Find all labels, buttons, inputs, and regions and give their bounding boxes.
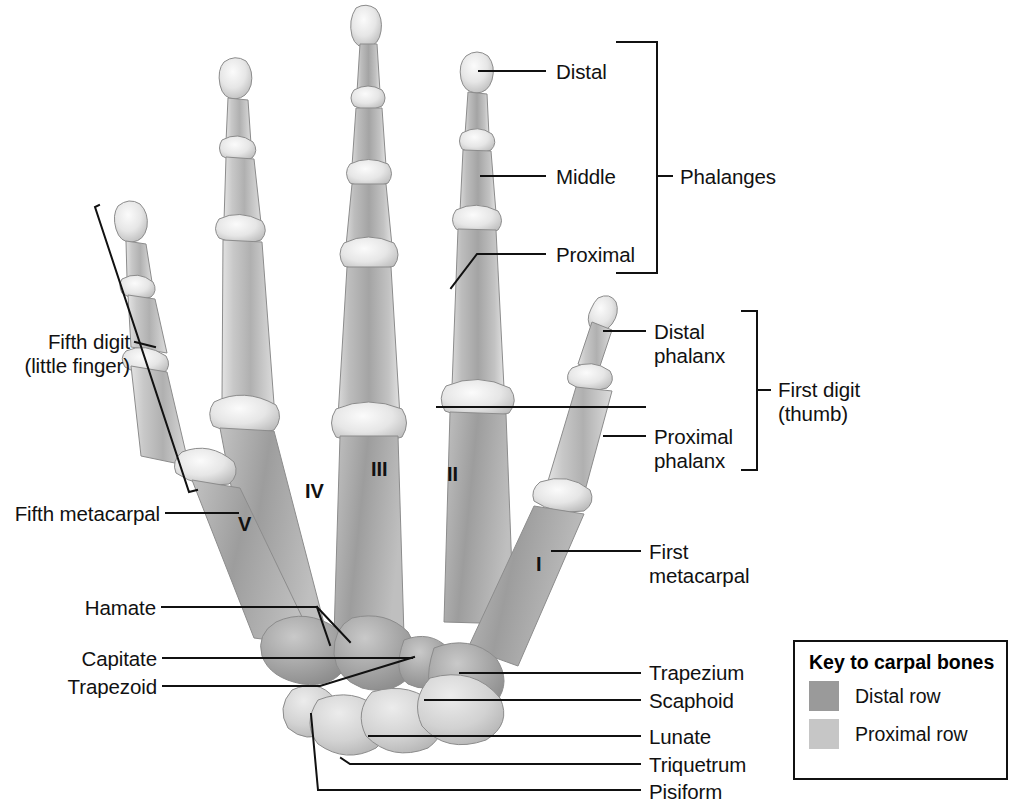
label-distal-phalanx-line2: phalanx bbox=[654, 344, 725, 368]
digit-2 bbox=[441, 52, 514, 624]
label-capitate: Capitate bbox=[0, 647, 157, 671]
label-phalanges: Phalanges bbox=[680, 165, 776, 189]
label-fifth-digit-line1: Fifth digit bbox=[0, 330, 130, 354]
hand-skeleton-figure: Distal Middle Proximal Phalanges Distal … bbox=[0, 0, 1018, 808]
label-first-metacarpal-line2: metacarpal bbox=[649, 564, 749, 588]
label-proximal: Proximal bbox=[556, 243, 635, 267]
label-first-digit-line1: First digit bbox=[778, 378, 860, 402]
leader-proximal bbox=[451, 254, 545, 288]
key-swatch-proximal-row bbox=[809, 719, 839, 749]
label-middle: Middle bbox=[556, 165, 616, 189]
label-first-digit-line2: (thumb) bbox=[778, 402, 848, 426]
label-triquetrum: Triquetrum bbox=[649, 753, 746, 777]
label-distal-phalanx-line1: Distal bbox=[654, 320, 705, 344]
digit-4 bbox=[210, 58, 326, 631]
numeral-i: I bbox=[536, 553, 542, 576]
numeral-iii: III bbox=[371, 458, 388, 481]
numeral-ii: II bbox=[447, 463, 458, 486]
label-proximal-phalanx-line1: Proximal bbox=[654, 425, 733, 449]
label-hamate: Hamate bbox=[0, 596, 156, 620]
label-first-metacarpal-line1: First bbox=[649, 540, 688, 564]
key-title: Key to carpal bones bbox=[809, 651, 1006, 674]
label-proximal-phalanx-line2: phalanx bbox=[654, 449, 725, 473]
key-row-proximal: Proximal row bbox=[809, 719, 1006, 749]
numeral-v: V bbox=[238, 513, 251, 536]
label-fifth-digit-line2: (little finger) bbox=[0, 354, 130, 378]
bracket-fifth-digit-stem bbox=[135, 342, 155, 347]
digit-5 bbox=[114, 201, 316, 646]
key-to-carpal-bones: Key to carpal bones Distal row Proximal … bbox=[793, 640, 1008, 780]
carpal-proximal-row bbox=[283, 675, 504, 755]
bracket-first-digit bbox=[742, 311, 757, 470]
label-scaphoid: Scaphoid bbox=[649, 689, 734, 713]
leader-hamate-fork-a bbox=[317, 607, 330, 645]
leader-trapezoid bbox=[163, 657, 414, 686]
label-trapezoid: Trapezoid bbox=[0, 675, 157, 699]
carpal-distal-row bbox=[261, 616, 504, 712]
digit-1-thumb bbox=[468, 296, 617, 666]
key-label-proximal-row: Proximal row bbox=[855, 723, 968, 746]
label-trapezium: Trapezium bbox=[649, 661, 744, 685]
numeral-iv: IV bbox=[305, 480, 324, 503]
bracket-phalanges bbox=[617, 42, 657, 273]
key-label-distal-row: Distal row bbox=[855, 685, 941, 708]
key-row-distal: Distal row bbox=[809, 681, 1006, 711]
key-swatch-distal-row bbox=[809, 681, 839, 711]
leader-triquetrum bbox=[341, 758, 640, 764]
digit-3 bbox=[332, 5, 407, 636]
label-distal: Distal bbox=[556, 60, 607, 84]
label-fifth-metacarpal: Fifth metacarpal bbox=[0, 502, 160, 526]
label-lunate: Lunate bbox=[649, 725, 711, 749]
label-pisiform: Pisiform bbox=[649, 780, 722, 804]
leader-hamate-fork-b bbox=[317, 607, 350, 642]
leader-pisiform bbox=[311, 714, 640, 790]
